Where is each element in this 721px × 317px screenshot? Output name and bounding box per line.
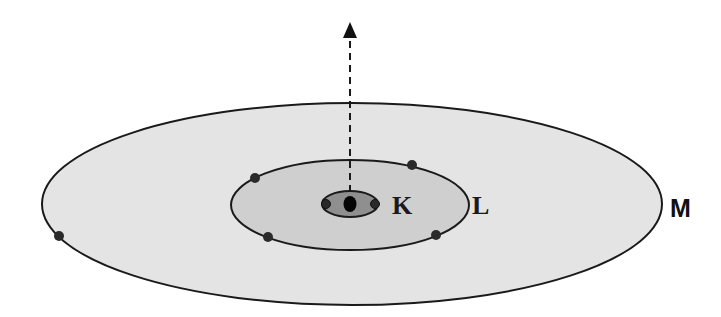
diagram-svg: K L M [0,0,721,317]
atom-shell-diagram: K L M [0,0,721,317]
electron-l-3 [263,232,273,242]
label-l: L [472,191,489,220]
electron-l-1 [250,173,260,183]
nucleus [344,196,357,212]
label-m: M [670,194,691,222]
electron-l-4 [431,230,441,240]
electron-k-2 [371,200,380,209]
electron-k-1 [322,200,331,209]
electron-m-1 [54,231,64,241]
arrowhead-icon [343,22,357,38]
label-k: K [392,191,413,220]
electron-l-2 [407,160,417,170]
